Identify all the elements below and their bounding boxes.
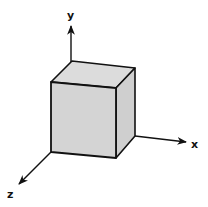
cube-front-face [51,82,116,158]
x-axis [135,136,186,142]
cube [51,61,135,158]
z-axis-label: z [7,188,13,201]
y-axis-label: y [67,9,74,22]
z-axis [19,152,51,184]
x-axis-label: x [191,138,198,151]
cube-axes-diagram: y x z [0,0,208,207]
diagram-canvas: y x z [0,0,208,207]
